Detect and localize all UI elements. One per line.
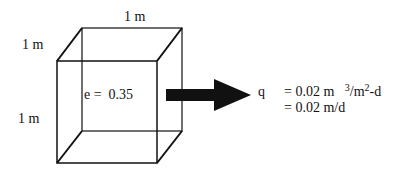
top-edge-label: 1 m xyxy=(124,9,145,25)
porosity-label: e = 0.35 xyxy=(84,87,133,103)
flux-line-1: = 0.02 m 3/m2-d xyxy=(284,84,381,101)
flux-line-2: = 0.02 m/d xyxy=(284,100,345,116)
cube-back-face xyxy=(82,28,182,131)
flux-line-1-prefix: = 0.02 m xyxy=(284,84,334,99)
flux-line-1-suffix: -d xyxy=(370,84,382,99)
flux-line-1-mid: /m xyxy=(350,84,365,99)
height-edge-label: 1 m xyxy=(18,111,39,127)
cube-edge-bottom-left xyxy=(57,131,82,163)
flux-line-1-exp: 3 xyxy=(345,82,350,93)
cube-edge-top-right xyxy=(157,28,182,61)
flow-arrow-icon xyxy=(166,79,251,111)
flux-symbol: q xyxy=(258,84,265,100)
cube-front-face xyxy=(57,61,157,163)
depth-edge-label: 1 m xyxy=(22,37,43,53)
flux-line-1-exp2: 2 xyxy=(365,82,370,93)
cube-edge-top-left xyxy=(57,28,82,61)
cube-edge-bottom-right xyxy=(157,131,182,163)
